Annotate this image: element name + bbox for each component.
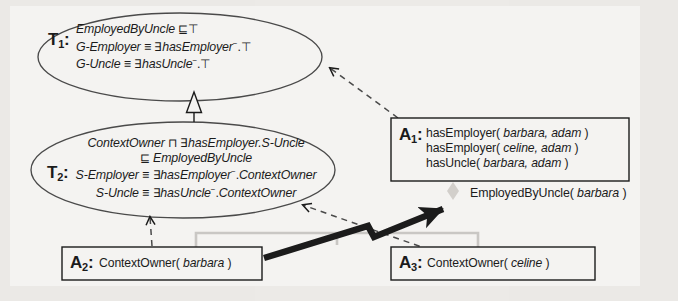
abox-label-a2: A2: (70, 253, 93, 273)
abox-content-a3: ContextOwner( celine ) (427, 256, 549, 271)
tbox-t2-axiom-line-2: ⊑ EmployedByUncle (70, 151, 322, 166)
tbox-content-t2: ContextOwner ⊓ ∃hasEmployer.S-Uncle⊑ Emp… (70, 136, 322, 201)
entailment-conclusion: EmployedByUncle( barbara ) (470, 186, 627, 200)
abox-label-a1: A1: (399, 125, 422, 145)
tbox-t1-axiom-line-3: G-Uncle ≡ ∃hasUncle−.⊤ (76, 54, 251, 72)
abox-a3-assertion-line-1: ContextOwner( celine ) (427, 256, 549, 271)
tbox-t1-axiom-line-1: EmployedByUncle ⊑⊤ (76, 22, 251, 37)
tbox-t1-axiom-line-2: G-Employer ≡ ∃hasEmployer−.⊤ (76, 37, 251, 55)
abox-a1-assertion-line-1: hasEmployer( barbara, adam ) (426, 126, 589, 141)
abox-content-a2: ContextOwner( barbara ) (99, 256, 232, 271)
tbox-t2-axiom-line-1: ContextOwner ⊓ ∃hasEmployer.S-Uncle (70, 136, 322, 151)
diagram-canvas: T1: EmployedByUncle ⊑⊤G-Employer ≡ ∃hasE… (0, 0, 678, 301)
tbox-t2-axiom-line-3: S-Employer ≡ ∃hasEmployer−.ContextOwner (70, 165, 322, 183)
abox-a1-assertion-line-3: hasUncle( barbara, adam ) (426, 156, 589, 171)
abox-a2-assertion-line-1: ContextOwner( barbara ) (99, 256, 232, 271)
abox-label-a3: A3: (399, 253, 422, 273)
tbox-label-t2: T2: (47, 163, 69, 183)
text-layer: T1: EmployedByUncle ⊑⊤G-Employer ≡ ∃hasE… (0, 0, 678, 301)
abox-content-a1: hasEmployer( barbara, adam )hasEmployer(… (426, 126, 589, 171)
tbox-t2-axiom-line-4: S-Uncle ≡ ∃hasUncle−.ContextOwner (70, 183, 322, 201)
tbox-label-t1: T1: (48, 30, 70, 50)
tbox-content-t1: EmployedByUncle ⊑⊤G-Employer ≡ ∃hasEmplo… (76, 22, 251, 72)
abox-a1-assertion-line-2: hasEmployer( celine, adam ) (426, 141, 589, 156)
